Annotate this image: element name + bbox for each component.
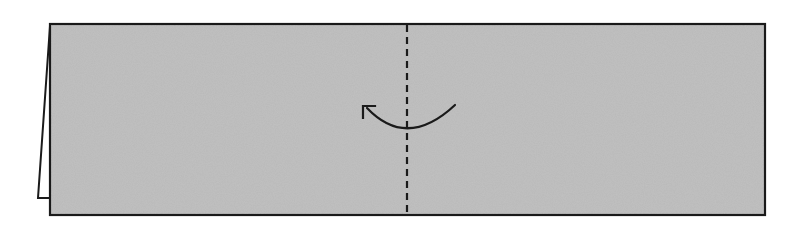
fold-diagram: [0, 0, 797, 228]
folded-flap: [38, 26, 50, 198]
